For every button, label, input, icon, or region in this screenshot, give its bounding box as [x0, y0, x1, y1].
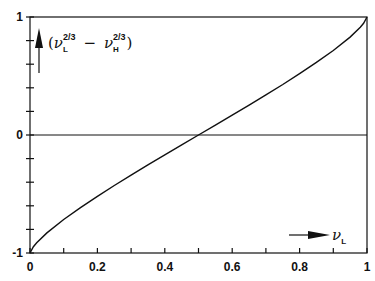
right-arrow-icon: [308, 231, 330, 239]
y-tick-label: 1: [16, 10, 23, 24]
svg-text:(νL2/3−νH2/3): (νL2/3−νH2/3): [48, 32, 132, 54]
y-tick-label: 0: [16, 128, 23, 142]
chart: 00.20.40.60.81-101 (νL2/3−νH2/3) νL: [0, 0, 375, 281]
x-tick-label: 1: [364, 260, 371, 274]
x-tick-label: 0: [27, 260, 34, 274]
ylabel-sup2: 2/3: [113, 32, 126, 42]
xlabel-sub: L: [341, 237, 346, 246]
y-tick-label: -1: [12, 246, 23, 260]
ylabel-nu1: ν: [54, 34, 63, 52]
ylabel-close: ): [126, 34, 132, 52]
y-axis-label: (νL2/3−νH2/3): [35, 28, 132, 73]
ylabel-sup1: 2/3: [63, 32, 76, 42]
x-tick-label: 0.4: [156, 260, 173, 274]
ylabel-minus: −: [83, 34, 96, 52]
x-axis-label: νL: [289, 226, 346, 246]
x-tick-label: 0.8: [291, 260, 308, 274]
ylabel-sub1: L: [63, 45, 68, 54]
x-tick-label: 0.2: [89, 260, 106, 274]
svg-text:νL: νL: [332, 226, 346, 246]
ylabel-sub2: H: [113, 45, 119, 54]
up-arrow-icon: [35, 28, 43, 48]
xlabel-nu: ν: [332, 226, 341, 244]
x-tick-label: 0.6: [224, 260, 241, 274]
ylabel-nu2: ν: [104, 34, 113, 52]
